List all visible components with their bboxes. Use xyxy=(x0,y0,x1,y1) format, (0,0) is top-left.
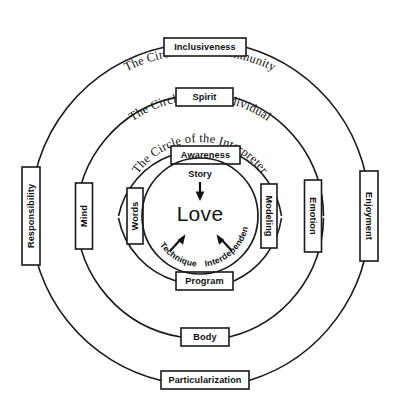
node-body-label: Body xyxy=(193,332,217,342)
flow-technique: Technique xyxy=(158,234,198,269)
flow-technique-arrow-head xyxy=(178,234,186,245)
flow-story: Story xyxy=(188,169,212,201)
ring-community-arc-top-left xyxy=(30,47,164,216)
node-particularization-label: Particularization xyxy=(168,375,241,385)
node-program[interactable]: Program xyxy=(176,272,233,290)
node-enjoyment[interactable]: Enjoyment xyxy=(360,171,378,261)
flow-interdependence-arrow-head xyxy=(217,234,225,245)
flow-story-label: Story xyxy=(188,169,212,179)
node-program-label: Program xyxy=(185,276,223,286)
node-mind-label: Mind xyxy=(79,205,89,227)
node-body[interactable]: Body xyxy=(181,328,229,346)
center-love-label: Love xyxy=(177,202,224,225)
node-emotion-label: Emotion xyxy=(308,197,318,235)
node-particularization[interactable]: Particularization xyxy=(161,371,249,389)
node-spirit[interactable]: Spirit xyxy=(176,88,233,106)
node-spirit-label: Spirit xyxy=(192,92,216,102)
node-inclusiveness-label: Inclusiveness xyxy=(174,42,236,52)
flow-technique-label: Technique xyxy=(158,240,198,269)
node-words[interactable]: Words xyxy=(127,188,143,244)
node-words-label: Words xyxy=(130,202,140,231)
node-enjoyment-label: Enjoyment xyxy=(364,192,374,240)
concentric-circles-diagram: The Circle of the Community Inclusivenes… xyxy=(0,0,394,412)
diagram-canvas: The Circle of the Community Inclusivenes… xyxy=(0,0,394,412)
node-inclusiveness[interactable]: Inclusiveness xyxy=(164,38,246,56)
node-modeling-label: Modeling xyxy=(264,195,274,236)
node-responsibility[interactable]: Responsibility xyxy=(22,167,40,265)
node-mind[interactable]: Mind xyxy=(76,183,93,249)
node-emotion[interactable]: Emotion xyxy=(305,180,322,252)
node-modeling[interactable]: Modeling xyxy=(261,184,277,248)
flow-story-arrow-head xyxy=(196,192,205,202)
node-responsibility-label: Responsibility xyxy=(26,183,36,248)
